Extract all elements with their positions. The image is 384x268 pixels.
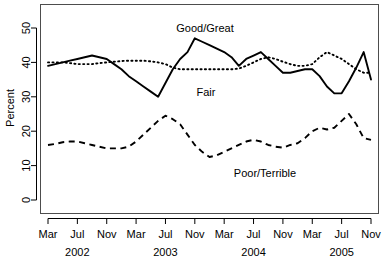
x-axis-tick-label: Jul [70,228,84,240]
series-label-poor-terrible: Poor/Terrible [234,167,296,179]
x-axis-tick-label: Mar [39,228,58,240]
x-axis-tick-label: Nov [97,228,117,240]
y-axis-tick-label: 10 [20,159,32,171]
x-axis-tick-label: Mar [215,228,234,240]
x-axis-tick-label: Mar [127,228,146,240]
series-label-good-great: Good/Great [176,22,233,34]
y-axis-tick-label: 40 [20,56,32,68]
x-axis-tick-label: Nov [185,228,205,240]
x-axis-year-label: 2005 [329,246,353,258]
x-axis-tick-label: Jul [335,228,349,240]
y-axis-tick-label: 50 [20,22,32,34]
x-axis-tick-label: Jul [247,228,261,240]
y-axis-tick-label: 30 [20,91,32,103]
y-axis-tick-label: 0 [20,197,32,203]
chart-container: 01020304050 MarJulNovMarJulNovMarJulNovM… [0,0,384,268]
x-axis-year-label: 2003 [153,246,177,258]
series-label-fair: Fair [197,86,216,98]
line-chart: 01020304050 MarJulNovMarJulNovMarJulNovM… [0,0,384,268]
x-axis-tick-label: Jul [158,228,172,240]
x-axis-tick-label: Mar [303,228,322,240]
x-axis-year-label: 2002 [65,246,89,258]
y-axis-tick-label: 20 [20,125,32,137]
y-axis-title: Percent [4,89,16,127]
x-axis-year-label: 2004 [241,246,265,258]
x-axis-tick-label: Nov [273,228,293,240]
x-axis-tick-label: Nov [361,228,381,240]
